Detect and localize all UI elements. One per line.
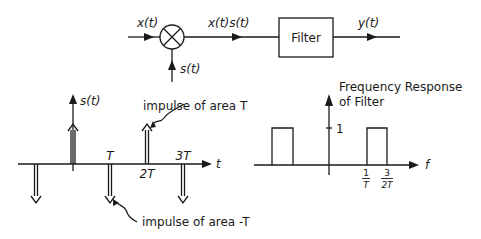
s-axis-label: s(t) [80,94,100,108]
diagram-canvas: x(t) s(t) x(t)s(t) Filter y(t) t s(t) [0,0,481,239]
impulse-train-plot: t s(t) [18,94,250,229]
impulse-neg-3T [178,164,188,203]
modulated-arrow-icon [232,33,242,41]
annotation-negative-text: impulse of area -T [142,215,250,229]
amplitude-tick-label: 1 [336,122,344,136]
input-label: x(t) [136,16,158,30]
f-axis-label: f [425,158,431,172]
freq-title-line2: of Filter [339,95,384,109]
carrier-arrow-icon [168,60,176,70]
s-axis-arrow-icon [69,94,77,104]
svg-text:T: T [363,180,370,190]
svg-text:1: 1 [363,168,369,178]
impulse-neg-minus-T [31,164,41,203]
svg-text:3: 3 [384,168,390,178]
t-axis-label: t [216,157,222,171]
passband-positive [367,128,387,165]
passband-negative [272,128,293,165]
tick-label-2T: 2T [140,167,157,181]
f-axis-arrow-icon [409,161,419,169]
filter-label: Filter [291,31,321,45]
amplitude-axis-arrow-icon [325,94,333,106]
output-label: y(t) [357,16,379,30]
annotation-arrow-negative-icon [113,199,119,206]
t-axis-arrow-icon [202,160,212,168]
tick-label-3T: 3T [176,149,193,163]
block-diagram: x(t) s(t) x(t)s(t) Filter y(t) [128,16,400,82]
svg-text:2T: 2T [381,180,394,190]
tick-label-T: T [106,149,115,163]
frequency-response-plot: f 1 Frequency Response of Filter 1 T 3 2… [254,80,462,190]
annotation-pointer-negative [116,202,137,222]
annotation-positive-text: impulse of area T [143,99,248,113]
carrier-label: s(t) [180,62,200,76]
impulse-pos-2T [142,124,152,164]
tick-label-3-over-2T: 3 2T [381,168,394,190]
tick-label-1-over-T: 1 T [362,168,370,190]
freq-title-line1: Frequency Response [339,80,462,94]
output-arrow-icon [367,33,377,41]
multiplier-icon [160,25,184,49]
impulse-neg-T [105,164,115,203]
modulated-label: x(t)s(t) [207,16,250,30]
input-arrow-icon [144,33,154,41]
